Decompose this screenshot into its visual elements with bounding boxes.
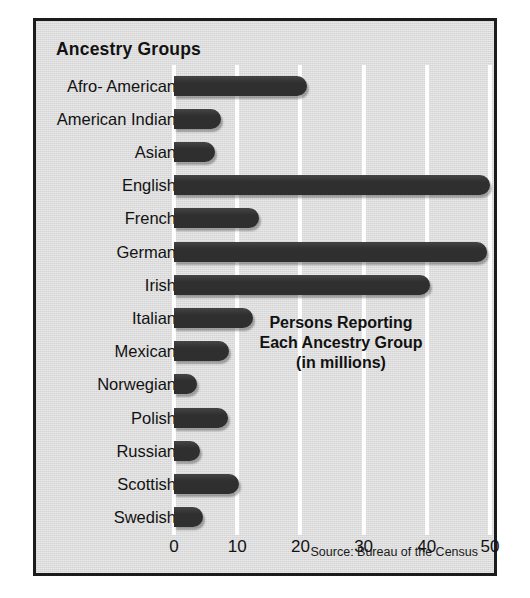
bar-row: Swedish xyxy=(36,501,494,534)
x-tick-label: 20 xyxy=(291,537,310,557)
category-label: Polish xyxy=(131,408,176,427)
category-label: Mexican xyxy=(115,342,176,361)
bar xyxy=(174,109,221,129)
bar-container xyxy=(174,208,259,228)
bar xyxy=(174,275,430,295)
category-label: French xyxy=(125,209,176,228)
category-label: Russian xyxy=(116,441,176,460)
bar xyxy=(174,408,228,428)
bar xyxy=(174,142,215,162)
category-label: Swedish xyxy=(114,508,176,527)
bar-container xyxy=(174,242,487,262)
category-label: German xyxy=(116,242,176,261)
bar xyxy=(174,474,239,494)
bar-container xyxy=(174,109,221,129)
bar-container xyxy=(174,507,203,527)
bar-container xyxy=(174,76,307,96)
bar-row: Asian xyxy=(36,135,494,168)
bar-row: Irish xyxy=(36,268,494,301)
bar xyxy=(174,341,229,361)
bar-container xyxy=(174,341,229,361)
category-label: Scottish xyxy=(117,474,176,493)
bar xyxy=(174,441,200,461)
x-tick-label: 0 xyxy=(169,537,178,557)
bar-row: English xyxy=(36,169,494,202)
bar-container xyxy=(174,142,215,162)
bar xyxy=(174,76,307,96)
bar-row: American Indian xyxy=(36,102,494,135)
category-label: Irish xyxy=(145,275,176,294)
chart-annotation: Persons Reporting Each Ancestry Group (i… xyxy=(236,313,446,373)
bar-row: French xyxy=(36,202,494,235)
bar-container xyxy=(174,474,239,494)
bar xyxy=(174,175,490,195)
bar-container xyxy=(174,275,430,295)
chart-title: Ancestry Groups xyxy=(56,39,201,60)
bar xyxy=(174,208,259,228)
annotation-line-3: (in millions) xyxy=(236,353,446,373)
category-label: Afro- American xyxy=(67,76,176,95)
bar-row: Afro- American xyxy=(36,69,494,102)
bar-row: German xyxy=(36,235,494,268)
annotation-line-2: Each Ancestry Group xyxy=(236,333,446,353)
bar xyxy=(174,242,487,262)
chart-figure: Ancestry Groups Afro- AmericanAmerican I… xyxy=(33,18,497,576)
bar-row: Scottish xyxy=(36,467,494,500)
bar xyxy=(174,507,203,527)
bar-container xyxy=(174,408,228,428)
category-label: Norwegian xyxy=(97,375,176,394)
plot-area: Ancestry Groups Afro- AmericanAmerican I… xyxy=(36,21,494,573)
category-label: Asian xyxy=(135,142,176,161)
category-label: English xyxy=(122,176,176,195)
source-note: Source: Bureau of the Census xyxy=(311,545,478,559)
bar-container xyxy=(174,441,200,461)
bar-container xyxy=(174,175,490,195)
bar xyxy=(174,374,197,394)
annotation-line-1: Persons Reporting xyxy=(236,313,446,333)
bar-container xyxy=(174,374,197,394)
category-label: Italian xyxy=(132,308,176,327)
bar-row: Polish xyxy=(36,401,494,434)
bar-row: Russian xyxy=(36,434,494,467)
category-label: American Indian xyxy=(57,109,176,128)
x-tick-label: 10 xyxy=(228,537,247,557)
x-tick-label: 50 xyxy=(481,537,500,557)
